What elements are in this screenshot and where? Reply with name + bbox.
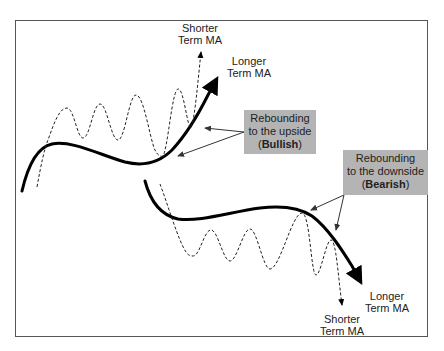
- bearish-text: Bearish: [365, 178, 405, 190]
- callout-emphasis-line: (Bullish): [244, 138, 316, 151]
- callout-line: to the upside: [244, 125, 316, 138]
- label-top-longer-term-ma: Longer Term MA: [227, 55, 271, 79]
- callout-emphasis-line: (Bearish): [343, 178, 428, 191]
- label-line: Term MA: [320, 325, 364, 337]
- callout-line: to the downside: [343, 165, 428, 178]
- label-line: Shorter: [178, 22, 222, 34]
- label-line: Term MA: [227, 67, 271, 79]
- label-top-shorter-term-ma: Shorter Term MA: [178, 22, 222, 46]
- callout-bullish: Rebounding to the upside (Bullish): [244, 110, 316, 154]
- upper-shorter-ma-line: [37, 52, 201, 187]
- label-line: Term MA: [365, 302, 409, 314]
- bearish-pointer-1: [311, 195, 344, 210]
- paren-close: ): [406, 178, 410, 190]
- label-line: Term MA: [178, 34, 222, 46]
- paren-close: ): [298, 138, 302, 150]
- label-line: Longer: [365, 290, 409, 302]
- label-line: Shorter: [320, 313, 364, 325]
- callout-line: Rebounding: [343, 152, 428, 165]
- callout-bearish: Rebounding to the downside (Bearish): [343, 150, 428, 195]
- bullish-pointer-1: [205, 128, 244, 132]
- label-line: Longer: [227, 55, 271, 67]
- upper-longer-ma-line: [22, 84, 214, 191]
- bullish-pointer-2: [178, 132, 244, 156]
- lower-shorter-ma-line: [160, 184, 342, 305]
- label-bottom-longer-term-ma: Longer Term MA: [365, 290, 409, 314]
- bearish-pointer-2: [336, 195, 344, 230]
- bullish-text: Bullish: [262, 138, 299, 150]
- callout-line: Rebounding: [244, 112, 316, 125]
- label-bottom-shorter-term-ma: Shorter Term MA: [320, 313, 364, 337]
